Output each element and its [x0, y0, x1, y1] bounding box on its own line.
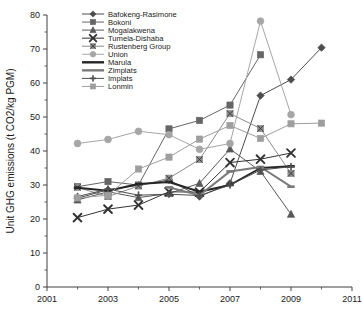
y-tick-group: 01020304050607080 — [30, 10, 47, 292]
legend-item-lonmin[interactable]: Lonmin — [82, 82, 133, 91]
y-axis-label: Unit GHG emissions (t CO2/kg PGM) — [5, 68, 16, 233]
x-tick-label: 2003 — [98, 294, 118, 304]
y-tick-label: 0 — [35, 282, 40, 292]
x-tick-label: 2011 — [342, 294, 361, 304]
x-tick-label: 2009 — [281, 294, 301, 304]
y-tick-label: 60 — [30, 78, 40, 88]
legend-label: Lonmin — [108, 82, 133, 91]
x-tick-label: 2005 — [159, 294, 179, 304]
y-tick-label: 10 — [30, 248, 40, 258]
y-tick-label: 40 — [30, 146, 40, 156]
y-tick-label: 50 — [30, 112, 40, 122]
y-tick-label: 80 — [30, 10, 40, 20]
y-tick-label: 70 — [30, 44, 40, 54]
plot-area: 0102030405060708020012003200520072009201… — [0, 0, 363, 319]
x-tick-label: 2001 — [37, 294, 57, 304]
y-tick-label: 30 — [30, 180, 40, 190]
x-tick-group: 200120032005200720092011 — [37, 287, 362, 304]
series-tumela-dishaba — [74, 149, 295, 221]
x-tick-label: 2007 — [220, 294, 240, 304]
legend: Bafokeng-RasimoneBokoniMogalakwenaTumela… — [82, 10, 177, 91]
ghg-emissions-line-chart: 0102030405060708020012003200520072009201… — [0, 0, 363, 319]
y-tick-label: 20 — [30, 214, 40, 224]
